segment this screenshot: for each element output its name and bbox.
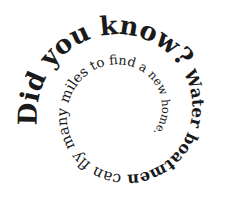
body-text: Water boatmen can fly many miles to find… <box>54 52 209 190</box>
spiral-text-graphic: Did you know? Water boatmen can fly many… <box>0 0 247 222</box>
spiral-text: Did you know? Water boatmen can fly many… <box>12 10 208 190</box>
